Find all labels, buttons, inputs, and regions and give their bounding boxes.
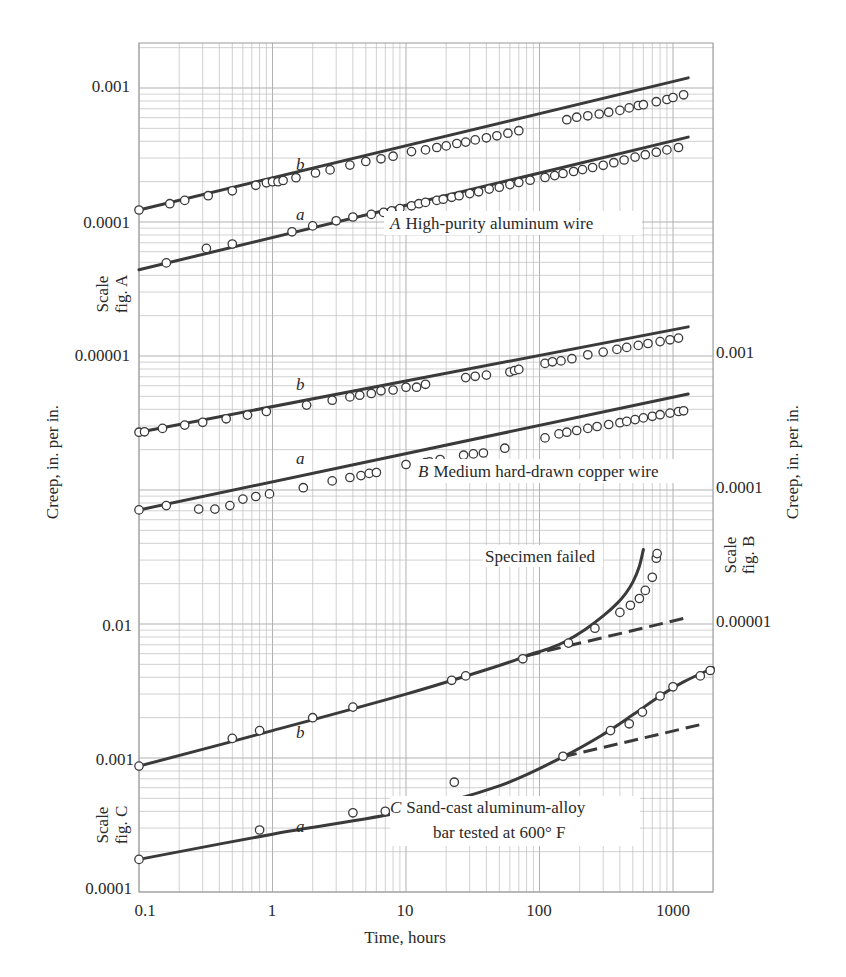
data-point bbox=[515, 127, 523, 135]
curve-b-a bbox=[139, 394, 688, 510]
panel-a-letter: A bbox=[389, 214, 401, 233]
tick-c-0.001: 0.001 bbox=[96, 750, 134, 769]
data-point bbox=[493, 132, 501, 140]
data-point bbox=[584, 112, 592, 120]
data-point bbox=[625, 104, 633, 112]
data-point bbox=[595, 110, 603, 118]
svg-text:fig. A: fig. A bbox=[112, 274, 131, 313]
data-point bbox=[453, 139, 461, 147]
data-point bbox=[641, 151, 649, 159]
svg-text:AHigh-purity aluminum wire: AHigh-purity aluminum wire bbox=[389, 214, 593, 233]
tick-b-0.0001: 0.0001 bbox=[716, 478, 763, 497]
data-point bbox=[243, 411, 251, 419]
data-point bbox=[367, 389, 375, 397]
data-point bbox=[674, 334, 682, 342]
specimen-failed-label: Specimen failed bbox=[485, 547, 595, 566]
data-point bbox=[140, 428, 148, 436]
data-point bbox=[195, 505, 203, 513]
data-point bbox=[652, 148, 660, 156]
data-point bbox=[568, 355, 576, 363]
data-point bbox=[349, 213, 357, 221]
data-point bbox=[367, 210, 375, 218]
data-point bbox=[639, 101, 647, 109]
panel-b-label: BMedium hard-drawn copper wire bbox=[414, 459, 707, 483]
data-point bbox=[638, 708, 646, 716]
data-point bbox=[501, 444, 509, 452]
creep-chart: AHigh-purity aluminum wire BMedium hard-… bbox=[0, 0, 846, 977]
data-point bbox=[551, 171, 559, 179]
data-point bbox=[541, 434, 549, 442]
panel-b-title: Medium hard-drawn copper wire bbox=[433, 462, 658, 481]
data-point bbox=[555, 430, 563, 438]
data-point bbox=[482, 371, 490, 379]
data-point bbox=[559, 752, 567, 760]
data-point bbox=[563, 116, 571, 124]
tick-x-1000: 1000 bbox=[656, 901, 690, 920]
panel-c-label: CSand-cast aluminum-alloy bar tested at … bbox=[390, 796, 640, 846]
data-point bbox=[226, 501, 234, 509]
data-point bbox=[255, 726, 263, 734]
data-point bbox=[222, 415, 230, 423]
data-point bbox=[309, 222, 317, 230]
data-point bbox=[626, 601, 634, 609]
data-point bbox=[471, 136, 479, 144]
data-point bbox=[299, 484, 307, 492]
data-point bbox=[515, 365, 523, 373]
data-point bbox=[564, 639, 572, 647]
data-point bbox=[166, 200, 174, 208]
data-point bbox=[346, 393, 354, 401]
data-point bbox=[644, 339, 652, 347]
data-point bbox=[328, 477, 336, 485]
panel-a-label: AHigh-purity aluminum wire bbox=[384, 211, 642, 235]
data-point bbox=[674, 143, 682, 151]
scale-label-a: Scale fig. A bbox=[93, 274, 131, 313]
data-point bbox=[255, 826, 263, 834]
data-point bbox=[135, 762, 143, 770]
data-point bbox=[228, 734, 236, 742]
panel-c-title-line1: Sand-cast aluminum-alloy bbox=[406, 798, 585, 817]
data-point bbox=[578, 165, 586, 173]
data-point bbox=[625, 720, 633, 728]
data-point bbox=[211, 505, 219, 513]
series-labels: bababa bbox=[296, 155, 305, 836]
data-point bbox=[346, 161, 354, 169]
data-point bbox=[421, 146, 429, 154]
data-point bbox=[616, 106, 624, 114]
data-point bbox=[311, 169, 319, 177]
data-point bbox=[158, 424, 166, 432]
data-point bbox=[519, 655, 527, 663]
data-point bbox=[482, 134, 490, 142]
data-point bbox=[495, 183, 503, 191]
data-point bbox=[548, 358, 556, 366]
data-point bbox=[228, 187, 236, 195]
data-point bbox=[631, 415, 639, 423]
data-point bbox=[377, 155, 385, 163]
data-point bbox=[389, 386, 397, 394]
data-point bbox=[471, 372, 479, 380]
data-point bbox=[252, 492, 260, 500]
series-label-a-a: a bbox=[296, 205, 305, 224]
data-point bbox=[652, 98, 660, 106]
data-point bbox=[279, 176, 287, 184]
data-point bbox=[669, 93, 677, 101]
data-point bbox=[656, 411, 664, 419]
data-point bbox=[412, 383, 420, 391]
data-point bbox=[381, 807, 389, 815]
data-point bbox=[402, 460, 410, 468]
data-point bbox=[466, 189, 474, 197]
data-point bbox=[135, 206, 143, 214]
data-point bbox=[377, 387, 385, 395]
data-point bbox=[663, 146, 671, 154]
data-point bbox=[706, 666, 714, 674]
data-point bbox=[448, 676, 456, 684]
left-axis-ticks: 0.001 0.0001 0.00001 0.01 0.001 0.0001 bbox=[75, 77, 134, 898]
data-point bbox=[357, 471, 365, 479]
data-point bbox=[328, 396, 336, 404]
svg-text:CSand-cast aluminum-alloy: CSand-cast aluminum-alloy bbox=[390, 798, 586, 817]
data-point bbox=[462, 672, 470, 680]
data-point bbox=[162, 501, 170, 509]
tick-x-10: 10 bbox=[397, 901, 414, 920]
data-point bbox=[421, 380, 429, 388]
tick-x-1: 1 bbox=[268, 901, 277, 920]
data-point bbox=[407, 147, 415, 155]
